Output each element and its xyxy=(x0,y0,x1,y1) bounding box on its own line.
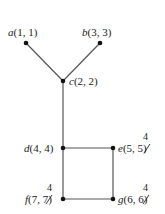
label-f: f(7, 7) xyxy=(25,193,52,206)
label-a: a(1, 1) xyxy=(8,26,38,39)
node-f xyxy=(61,197,66,202)
superscript-e: 4 xyxy=(143,131,148,142)
node-c xyxy=(61,79,66,84)
superscript-f: 4 xyxy=(47,182,52,193)
node-g xyxy=(111,197,116,202)
node-d xyxy=(61,146,66,151)
label-c: c(2, 2) xyxy=(69,75,98,88)
superscript-g: 4 xyxy=(143,182,148,193)
node-b xyxy=(98,41,103,46)
label-b: b(3, 3) xyxy=(82,26,112,39)
graph-diagram: a(1, 1) b(3, 3) c(2, 2) d(4, 4) e(5, 5) … xyxy=(0,0,165,214)
label-d: d(4, 4) xyxy=(24,142,54,155)
node-e xyxy=(111,146,116,151)
label-e: e(5, 5) xyxy=(118,142,147,155)
node-a xyxy=(24,41,29,46)
edge-a-c xyxy=(26,43,63,81)
